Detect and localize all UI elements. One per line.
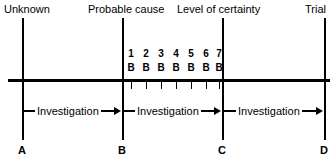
investigation-segment-a-b: Investigation [22,104,122,118]
segment-label: Investigation [236,104,302,118]
tick-sub-4: B [170,62,182,73]
tick-sub-5: B [185,62,197,73]
investigation-segment-c-d: Investigation [222,104,324,118]
tick-sub-6: B [200,62,212,73]
timeline-diagram: Unknown Probable cause Level of certaint… [0,0,335,160]
tick-number-2: 2 [140,48,152,59]
tick-mark-1 [131,82,132,89]
arrow-head-icon [114,107,121,115]
arrow-head-icon [214,107,221,115]
point-label-c: C [218,144,226,156]
tick-number-6: 6 [200,48,212,59]
tick-number-1: 1 [125,48,137,59]
tick-sub-1: B [125,62,137,73]
tick-mark-5 [191,82,192,89]
tick-mark-7 [219,82,220,89]
top-label-trial: Trial [305,3,326,16]
tick-sub-2: B [140,62,152,73]
tick-mark-2 [146,82,147,89]
tick-mark-6 [206,82,207,89]
tick-number-5: 5 [185,48,197,59]
top-label-probable-cause: Probable cause [88,3,164,16]
tick-number-3: 3 [155,48,167,59]
point-label-b: B [118,144,126,156]
tick-number-4: 4 [170,48,182,59]
tick-number-7: 7 [213,48,225,59]
arrow-head-icon [316,107,323,115]
point-label-a: A [18,144,26,156]
tick-mark-3 [161,82,162,89]
tick-sub-7: B [213,62,225,73]
segment-label: Investigation [135,104,201,118]
tick-mark-4 [176,82,177,89]
point-label-d: D [320,144,328,156]
segment-label: Investigation [35,104,101,118]
investigation-segment-b-c: Investigation [122,104,222,118]
top-label-unknown: Unknown [4,3,50,16]
top-label-level-of-certainty: Level of certainty [177,3,260,16]
tick-sub-3: B [155,62,167,73]
main-axis-line [8,79,330,82]
